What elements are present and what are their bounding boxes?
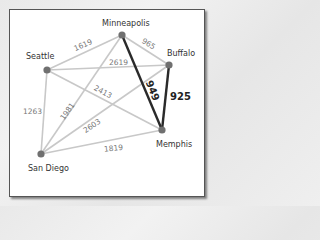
edge-label-1981: 1981 [58,101,76,122]
edge-buffalo-memphis [162,65,169,130]
edge-label-2413: 2413 [92,83,113,100]
node-buffalo [165,61,172,68]
edge-label-1819: 1819 [104,143,124,154]
edge-label-2619: 2619 [109,58,128,67]
node-label-sandiego: San Diego [28,164,69,173]
node-label-memphis: Memphis [156,140,192,149]
edge-label-1619: 1619 [72,37,93,53]
edge-label-1263: 1263 [23,107,42,116]
node-label-buffalo: Buffalo [167,49,195,58]
node-sandiego [37,150,44,157]
node-label-minneapolis: Minneapolis [102,19,150,28]
node-label-seattle: Seattle [26,52,54,61]
edge-label-965: 965 [140,36,157,51]
graph-canvas: 1619 965 2619 2413 1263 1981 2603 1819 9… [0,0,217,206]
node-memphis [158,126,165,133]
edge-label-2603: 2603 [82,117,103,135]
node-seattle [43,66,50,73]
edge-seattle-buffalo [47,65,169,70]
node-minneapolis [118,31,125,38]
edge-label-925: 925 [170,91,191,102]
